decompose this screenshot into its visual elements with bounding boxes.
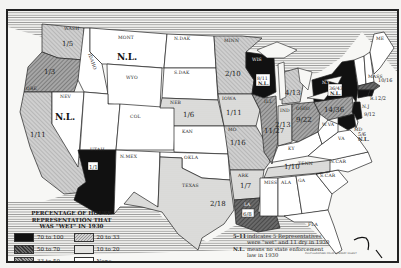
- svg-text:S.DAK: S.DAK: [174, 70, 190, 75]
- legend-title-line1: PERCENTAGE OF HOUSE: [14, 210, 129, 217]
- svg-text:WYO: WYO: [126, 75, 138, 80]
- ariz-value: 1/1: [89, 164, 98, 170]
- nev-nl: N.L.: [55, 112, 75, 122]
- svg-text:IND: IND: [280, 108, 290, 113]
- svg-text:NEB: NEB: [170, 100, 182, 105]
- svg-text:MO: MO: [228, 127, 237, 132]
- swatch-70-100: [14, 233, 34, 242]
- mont-nl: N.L.: [117, 52, 137, 62]
- svg-text:MISS: MISS: [264, 180, 277, 185]
- svg-text:FLA: FLA: [308, 222, 319, 227]
- svg-text:COL: COL: [130, 114, 141, 119]
- svg-text:VA: VA: [337, 136, 345, 141]
- legend-label: 70 to 100: [37, 234, 64, 240]
- svg-text:TENN: TENN: [298, 161, 313, 166]
- la-value: 6/8: [243, 211, 252, 217]
- svg-text:LA: LA: [244, 202, 251, 207]
- legend-label: 33 to 50: [37, 258, 60, 263]
- svg-text:GA: GA: [298, 178, 306, 183]
- svg-text:ALA: ALA: [280, 180, 292, 185]
- mich-value: 4/13: [285, 89, 301, 97]
- svg-text:TEXAS: TEXAS: [182, 183, 199, 188]
- legend-item-none: None: [74, 257, 130, 263]
- legend-label: None: [97, 258, 112, 263]
- ark-value: 1/7: [240, 182, 251, 190]
- svg-text:KAN: KAN: [182, 129, 193, 134]
- svg-text:MONT: MONT: [118, 35, 134, 40]
- svg-text:UTAH: UTAH: [90, 147, 105, 152]
- svg-text:N.CAR: N.CAR: [330, 159, 347, 164]
- legend-label: 20 to 33: [97, 234, 120, 240]
- minn-value: 2/10: [225, 70, 241, 78]
- map-frame: WASH ORE NEV IDAHO MONT WYO UTAH COL N.M…: [6, 9, 399, 263]
- note-text-2b: law in 1930: [247, 252, 278, 258]
- ohio-value: 9/22: [296, 116, 312, 124]
- swatch-20-33: [74, 233, 94, 242]
- svg-text:N.DAK: N.DAK: [174, 36, 191, 41]
- legend-item-33-50: 33 to 50: [14, 257, 70, 263]
- nj-value: 9/12: [364, 111, 375, 117]
- md-nl: N.L.: [358, 136, 370, 142]
- svg-text:R.I: R.I: [370, 96, 377, 101]
- swatch-10-20: [74, 245, 94, 254]
- swatch-50-70: [14, 245, 34, 254]
- state-mont[interactable]: [90, 28, 167, 68]
- calif-value: 1/11: [30, 131, 46, 139]
- iowa-value: 1/11: [226, 109, 242, 117]
- legend-label: 10 to 20: [97, 246, 120, 252]
- svg-text:MINN: MINN: [224, 38, 239, 43]
- svg-text:IOWA: IOWA: [222, 96, 236, 101]
- legend-item-70-100: 70 to 100: [14, 233, 70, 242]
- ny-nl: N.L.: [330, 90, 341, 96]
- legend-title-line3: WAS "WET" IN 1930: [14, 223, 129, 230]
- legend-grid: 70 to 100 20 to 33 50 to 70 10 to 20 33 …: [14, 233, 129, 263]
- svg-text:N.J: N.J: [362, 104, 369, 109]
- legend-title-line2: REPRESENTATION THAT: [14, 217, 129, 224]
- svg-text:NEV: NEV: [60, 94, 72, 99]
- svg-text:WASH: WASH: [64, 26, 79, 31]
- pa-value: 14/36: [324, 106, 345, 114]
- neb-value: 1/6: [183, 111, 195, 119]
- credit-line: PHOTOGRAPHED FROM LITERARY DIGEST: [305, 252, 357, 255]
- wis-nl: N.L.: [258, 80, 269, 86]
- legend-title: PERCENTAGE OF HOUSE REPRESENTATION THAT …: [14, 210, 129, 230]
- svg-text:ORE: ORE: [26, 86, 37, 91]
- state-col[interactable]: [116, 104, 176, 150]
- texas-value: 2/18: [210, 200, 226, 208]
- svg-text:ME: ME: [376, 36, 384, 41]
- ind-value: 2/13: [275, 121, 291, 129]
- state-wyo[interactable]: [107, 64, 162, 108]
- swatch-33-50: [14, 257, 34, 263]
- legend-item-50-70: 50 to 70: [14, 245, 70, 254]
- legend-item-20-33: 20 to 33: [74, 233, 130, 242]
- legend-label: 50 to 70: [37, 246, 60, 252]
- svg-text:ILL: ILL: [264, 99, 272, 104]
- svg-text:WIS: WIS: [252, 57, 262, 62]
- swatch-none: [74, 257, 94, 263]
- ore-value: 1/3: [44, 68, 55, 76]
- svg-text:OKLA: OKLA: [184, 155, 199, 160]
- legend: PERCENTAGE OF HOUSE REPRESENTATION THAT …: [14, 210, 129, 263]
- ri-value: 2/2: [378, 95, 386, 101]
- note-1b: were "wet" and 11 dry in 1930: [233, 239, 353, 245]
- svg-text:OHIO: OHIO: [296, 106, 310, 111]
- mass-value: 10/16: [378, 77, 392, 83]
- legend-item-10-20: 10 to 20: [74, 245, 130, 254]
- state-sdak[interactable]: [162, 68, 218, 100]
- tenn-value: 1/10: [284, 163, 300, 171]
- wash-value: 1/5: [62, 40, 73, 48]
- mo-value: 1/16: [230, 139, 246, 147]
- svg-text:W.VA: W.VA: [322, 122, 335, 127]
- note-text-1b: were "wet" and 11 dry in 1930: [247, 239, 329, 245]
- svg-text:ARK: ARK: [237, 173, 249, 178]
- svg-text:S.CAR: S.CAR: [320, 173, 336, 178]
- svg-text:N.MEX: N.MEX: [120, 154, 138, 159]
- svg-text:KY: KY: [288, 146, 295, 151]
